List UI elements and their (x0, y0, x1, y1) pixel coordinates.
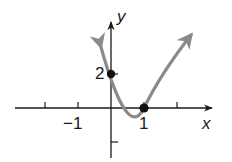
parabola-graph (0, 0, 232, 162)
y-tick-label-2: 2 (95, 65, 104, 82)
x-axis-label: x (202, 115, 211, 132)
point-vertex (139, 103, 148, 112)
point-y-intercept (107, 70, 115, 78)
x-tick-label-1: 1 (139, 115, 148, 132)
y-axis-label: y (117, 8, 126, 25)
x-tick-label-neg1: −1 (63, 115, 82, 132)
